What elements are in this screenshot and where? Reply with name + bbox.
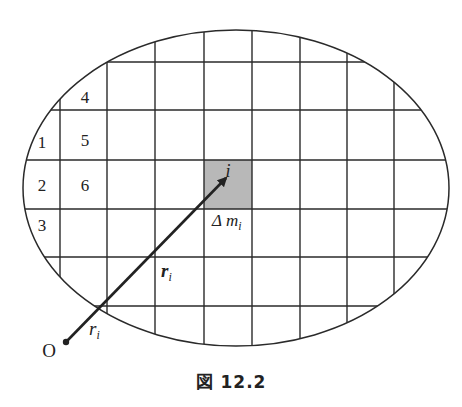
figure-caption: 図 12.2 [0, 368, 462, 393]
cell-label-1: 1 [38, 133, 47, 152]
distance-r-subscript: i [96, 328, 99, 342]
vector-r-label: ri [161, 260, 172, 284]
mass-element-diagram: 1 2 3 4 5 6 i Δ mi ri ri O [0, 0, 462, 407]
vector-r-subscript: i [168, 270, 171, 284]
cell-label-2: 2 [38, 176, 47, 195]
delta-m-text: Δ m [211, 211, 238, 230]
mass-element-label: Δ mi [211, 211, 242, 233]
element-index-label: i [225, 161, 230, 181]
origin-label: O [42, 340, 56, 361]
cell-label-4: 4 [81, 88, 90, 107]
distance-r-label: ri [89, 318, 100, 342]
cell-label-6: 6 [81, 176, 90, 195]
origin-point [63, 339, 69, 345]
cell-label-5: 5 [81, 131, 90, 150]
delta-m-subscript: i [238, 219, 241, 233]
cell-label-3: 3 [38, 216, 47, 235]
